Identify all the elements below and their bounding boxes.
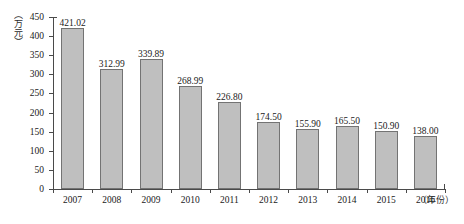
y-axis-tick: 50 <box>49 170 53 171</box>
y-axis-tick-label: 0 <box>39 184 44 194</box>
x-axis-tick <box>53 189 54 193</box>
x-axis-tick <box>131 189 132 193</box>
y-axis-tick-label: 100 <box>30 146 44 156</box>
y-axis-tick-label: 200 <box>30 108 44 118</box>
y-axis-tick: 100 <box>49 151 53 152</box>
bar: 155.90 <box>296 129 319 189</box>
x-axis-tick <box>367 189 368 193</box>
bar-value-label: 155.90 <box>295 119 321 129</box>
x-axis-tick <box>445 189 446 193</box>
y-axis-title: （万元） <box>4 10 22 80</box>
bar: 150.90 <box>375 131 398 189</box>
bar-value-label: 226.80 <box>216 92 242 102</box>
chart-screenshot: （万元） 050100150200250300350400450 421.023… <box>0 0 464 224</box>
x-axis-category-label: 2009 <box>142 195 161 205</box>
x-axis-category-label: 2012 <box>259 195 278 205</box>
y-axis-tick-label: 150 <box>30 127 44 137</box>
y-axis-tick-label: 50 <box>35 165 45 175</box>
bar: 312.99 <box>100 69 123 189</box>
bar: 165.50 <box>336 126 359 189</box>
bar: 174.50 <box>257 122 280 189</box>
y-axis-tick: 250 <box>49 93 53 94</box>
x-axis-category-label: 2014 <box>338 195 357 205</box>
bar-value-label: 138.00 <box>412 126 438 136</box>
x-axis-category-label: 2007 <box>63 195 82 205</box>
y-axis-tick: 300 <box>49 74 53 75</box>
bar-value-label: 312.99 <box>99 59 125 69</box>
y-axis-tick-label: 300 <box>30 69 44 79</box>
bar: 339.89 <box>140 59 163 189</box>
bar: 421.02 <box>61 28 84 189</box>
y-axis-tick-label: 450 <box>30 12 44 22</box>
x-axis-tick <box>92 189 93 193</box>
x-axis-category-label: 2015 <box>377 195 396 205</box>
x-axis-tick <box>288 189 289 193</box>
bar-value-label: 174.50 <box>256 112 282 122</box>
y-axis-tick-label: 400 <box>30 31 44 41</box>
y-axis-line <box>53 17 54 190</box>
bar: 138.00 <box>414 136 437 189</box>
bar: 268.99 <box>179 86 202 189</box>
x-axis-tick <box>249 189 250 193</box>
bar-value-label: 421.02 <box>60 18 86 28</box>
bar: 226.80 <box>218 102 241 189</box>
bar-value-label: 150.90 <box>373 121 399 131</box>
x-axis-category-label: 2013 <box>298 195 317 205</box>
x-axis-title: （年份） <box>418 195 454 205</box>
bar-value-label: 165.50 <box>334 116 360 126</box>
y-axis-top-cap <box>53 17 57 18</box>
x-axis-category-label: 2011 <box>220 195 239 205</box>
x-axis-category-label: 2008 <box>102 195 121 205</box>
x-axis-tick <box>171 189 172 193</box>
x-axis-tick <box>406 189 407 193</box>
y-axis-tick: 200 <box>49 113 53 114</box>
bar-value-label: 339.89 <box>138 49 164 59</box>
y-axis-tick: 150 <box>49 132 53 133</box>
x-axis-category-label: 2010 <box>181 195 200 205</box>
y-axis-tick: 350 <box>49 55 53 56</box>
y-axis-tick-label: 350 <box>30 50 44 60</box>
plot-area: 050100150200250300350400450 421.02312.99… <box>53 17 445 189</box>
x-axis-tick <box>210 189 211 193</box>
y-axis-tick-label: 250 <box>30 88 44 98</box>
x-axis-tick <box>327 189 328 193</box>
y-axis-tick: 400 <box>49 36 53 37</box>
y-axis-tick: 450 <box>49 17 53 18</box>
bar-value-label: 268.99 <box>177 76 203 86</box>
